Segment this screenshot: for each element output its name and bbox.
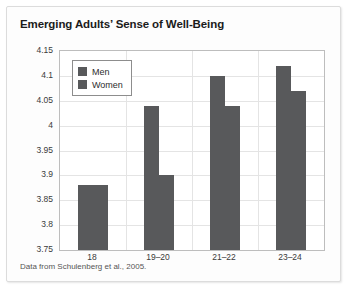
- chart-plot-wrapper: 4.154.14.0543.953.93.853.83.75 MenWomen …: [14, 44, 334, 257]
- y-tick-label: 3.75: [36, 244, 53, 254]
- x-tick-label: 19–20: [146, 252, 170, 262]
- plot-area: MenWomen: [59, 50, 325, 251]
- y-tick-label: 4.05: [36, 95, 53, 105]
- bar-group: [144, 51, 174, 250]
- chart-legend: MenWomen: [72, 60, 132, 96]
- y-tick-label: 3.8: [41, 219, 53, 229]
- figure-card: Emerging Adults’ Sense of Well-Being 4.1…: [6, 6, 341, 282]
- y-tick-label: 3.85: [36, 194, 53, 204]
- bar-men[interactable]: [78, 185, 93, 250]
- y-tick-label: 4.1: [41, 70, 53, 80]
- legend-label: Women: [92, 80, 123, 90]
- legend-swatch-icon: [78, 67, 87, 76]
- y-tick-label: 4: [48, 120, 53, 130]
- x-tick-label: 21–22: [212, 252, 236, 262]
- bar-men[interactable]: [276, 66, 291, 250]
- bar-women[interactable]: [291, 91, 306, 250]
- bar-women[interactable]: [225, 106, 240, 250]
- y-tick-label: 4.15: [36, 45, 53, 55]
- bar-group: [276, 51, 306, 250]
- x-tick-label: 23–24: [278, 252, 302, 262]
- legend-label: Men: [92, 67, 110, 77]
- bar-men[interactable]: [144, 106, 159, 250]
- chart-title: Emerging Adults’ Sense of Well-Being: [20, 18, 224, 30]
- y-axis: 4.154.14.0543.953.93.853.83.75: [14, 44, 56, 257]
- legend-entry: Men: [78, 65, 123, 78]
- y-tick-label: 3.9: [41, 169, 53, 179]
- legend-entry: Women: [78, 78, 123, 91]
- bar-group: [210, 51, 240, 250]
- bar-men[interactable]: [210, 76, 225, 250]
- source-note: Data from Schulenberg et al., 2005.: [20, 262, 146, 271]
- bar-women[interactable]: [159, 175, 174, 250]
- bar-women[interactable]: [93, 185, 108, 250]
- x-tick-label: 18: [87, 252, 96, 262]
- y-tick-label: 3.95: [36, 145, 53, 155]
- legend-swatch-icon: [78, 80, 87, 89]
